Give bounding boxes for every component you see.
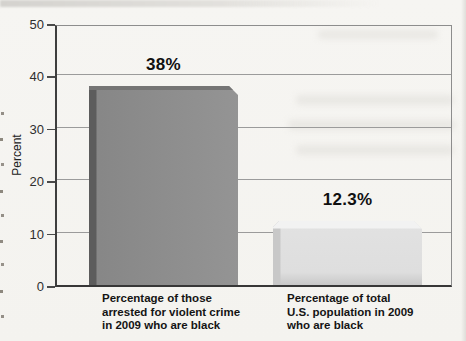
y-tick-mark-10: [47, 234, 55, 236]
y-tick-label-20: 20: [18, 174, 44, 189]
scan-artifact-right-edge: [461, 0, 466, 341]
y-tick-mark-50: [47, 24, 55, 26]
gridline-40: [57, 74, 451, 75]
plot-area: 38%12.3%: [55, 25, 452, 287]
bar-category-label-1: Percentage of those arrested for violent…: [102, 292, 240, 333]
y-tick-mark-40: [47, 76, 55, 78]
y-tick-label-40: 40: [18, 69, 44, 84]
y-tick-label-10: 10: [18, 227, 44, 242]
bar-value-label-1: 38%: [146, 55, 181, 75]
scan-artifact-left-edge: [0, 0, 3, 3]
y-tick-label-30: 30: [18, 122, 44, 137]
y-tick-mark-20: [47, 181, 55, 183]
bar-value-label-2: 12.3%: [323, 190, 373, 210]
bar-1: [89, 86, 238, 285]
y-tick-mark-0: [47, 286, 55, 288]
scanned-book-figure: Percent 38%12.3% 01020304050Percentage o…: [0, 0, 466, 341]
scan-artifact-top: [0, 0, 380, 7]
y-tick-label-50: 50: [18, 17, 44, 32]
bar-2: [273, 221, 422, 285]
y-tick-mark-30: [47, 129, 55, 131]
y-tick-label-0: 0: [18, 279, 44, 294]
bar-category-label-2: Percentage of total U.S. population in 2…: [287, 292, 414, 333]
